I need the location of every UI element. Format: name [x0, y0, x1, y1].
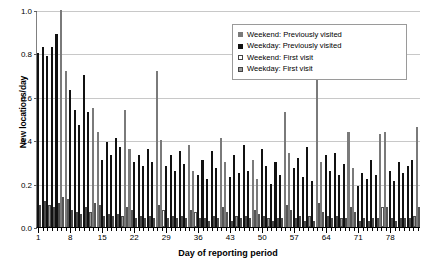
- bar-weekday-previously-visited: [370, 160, 372, 227]
- x-tick-mark: [349, 228, 350, 231]
- x-tick-label: 78: [386, 233, 395, 242]
- legend-label: Weekend: First visit: [247, 54, 313, 62]
- x-tick-mark: [98, 228, 99, 231]
- legend-item: Weekday: Previously visited: [238, 41, 401, 53]
- x-tick-label: 43: [226, 233, 235, 242]
- y-tick-label: 0.4: [6, 137, 32, 146]
- x-tick-mark: [335, 228, 336, 231]
- x-tick-mark: [194, 228, 195, 231]
- x-tick-label: 29: [162, 233, 171, 242]
- bar-weekday-previously-visited: [274, 162, 276, 227]
- x-tick-mark: [313, 228, 314, 231]
- bar-weekday-previously-visited: [37, 53, 39, 227]
- x-tick-label: 8: [68, 233, 72, 242]
- x-tick-mark: [372, 228, 373, 231]
- bar-weekday-previously-visited: [243, 145, 245, 227]
- x-tick-mark: [235, 228, 236, 231]
- x-tick-mark: [107, 228, 108, 231]
- bar-weekday-previously-visited: [42, 47, 44, 227]
- x-tick-mark: [290, 228, 291, 231]
- x-tick-mark: [409, 228, 410, 231]
- x-tick-mark: [303, 228, 304, 231]
- y-tick-label: 0.2: [6, 180, 32, 189]
- x-tick-mark: [399, 228, 400, 231]
- x-tick-mark: [121, 228, 122, 231]
- bar-weekend-previously-visited: [60, 10, 62, 227]
- x-tick-mark: [221, 228, 222, 231]
- x-tick-mark: [340, 228, 341, 231]
- legend-swatch-first-weekday-icon: [238, 67, 243, 72]
- x-tick-mark: [363, 228, 364, 231]
- x-tick-mark: [143, 228, 144, 231]
- legend-swatch-prev-weekend-icon: [238, 32, 243, 37]
- chart-legend: Weekend: Previously visitedWeekday: Prev…: [232, 24, 407, 80]
- x-tick-mark: [111, 228, 112, 231]
- legend-swatch-first-weekend-icon: [238, 55, 243, 60]
- legend-label: Weekday: Previously visited: [247, 42, 341, 50]
- x-tick-mark: [381, 228, 382, 231]
- bar-weekday-previously-visited: [78, 125, 80, 227]
- x-tick-mark: [258, 228, 259, 231]
- x-tick-label: 1: [36, 233, 40, 242]
- x-tick-mark: [157, 228, 158, 231]
- x-tick-mark: [285, 228, 286, 231]
- x-tick-mark: [367, 228, 368, 231]
- bar-weekday-previously-visited: [133, 162, 135, 227]
- x-tick-mark: [185, 228, 186, 231]
- legend-label: Weekday: First visit: [247, 65, 313, 73]
- x-tick-mark: [345, 228, 346, 231]
- x-tick-mark: [171, 228, 172, 231]
- x-tick-label: 15: [98, 233, 107, 242]
- x-tick-mark: [404, 228, 405, 231]
- y-tick-label: 0.8: [6, 50, 32, 59]
- bar-weekday-previously-visited: [229, 177, 231, 227]
- x-tick-mark: [180, 228, 181, 231]
- x-tick-label: 71: [354, 233, 363, 242]
- x-tick-label: 36: [194, 233, 203, 242]
- x-tick-mark: [189, 228, 190, 231]
- bar-weekday-previously-visited: [69, 90, 71, 227]
- x-axis-title: Day of reporting period: [36, 248, 420, 258]
- x-tick-mark: [418, 228, 419, 231]
- x-tick-mark: [47, 228, 48, 231]
- x-tick-mark: [354, 228, 355, 231]
- bar-weekday-previously-visited: [83, 75, 85, 227]
- x-tick-mark: [130, 228, 131, 231]
- x-tick-mark: [281, 228, 282, 231]
- x-tick-mark: [139, 228, 140, 231]
- legend-label: Weekend: Previously visited: [247, 31, 342, 39]
- bar-weekday-previously-visited: [201, 160, 203, 227]
- x-tick-mark: [75, 228, 76, 231]
- x-tick-mark: [276, 228, 277, 231]
- x-tick-mark: [175, 228, 176, 231]
- x-tick-mark: [212, 228, 213, 231]
- x-tick-mark: [322, 228, 323, 231]
- x-tick-mark: [148, 228, 149, 231]
- y-tick-label: 0.0: [6, 224, 32, 233]
- legend-item: Weekend: Previously visited: [238, 29, 401, 41]
- legend-swatch-prev-weekday-icon: [238, 44, 243, 49]
- x-tick-mark: [331, 228, 332, 231]
- x-tick-mark: [61, 228, 62, 231]
- bar-weekday-previously-visited: [46, 56, 48, 227]
- x-tick-mark: [93, 228, 94, 231]
- x-tick-mark: [57, 228, 58, 231]
- x-tick-mark: [203, 228, 204, 231]
- x-tick-mark: [308, 228, 309, 231]
- bar-weekday-previously-visited: [302, 177, 304, 227]
- y-axis-tick-labels: 1.00.80.60.40.20.0: [4, 0, 32, 270]
- x-tick-label: 22: [130, 233, 139, 242]
- y-tick-label: 0.6: [6, 93, 32, 102]
- x-tick-mark: [299, 228, 300, 231]
- x-tick-mark: [66, 228, 67, 231]
- x-tick-mark: [249, 228, 250, 231]
- legend-item: Weekday: First visit: [238, 64, 401, 76]
- x-tick-mark: [52, 228, 53, 231]
- bar-weekday-previously-visited: [119, 147, 121, 227]
- x-tick-mark: [226, 228, 227, 231]
- x-tick-mark: [162, 228, 163, 231]
- x-tick-mark: [89, 228, 90, 231]
- x-tick-mark: [207, 228, 208, 231]
- bar-weekend-first-visit: [418, 207, 420, 227]
- x-tick-mark: [317, 228, 318, 231]
